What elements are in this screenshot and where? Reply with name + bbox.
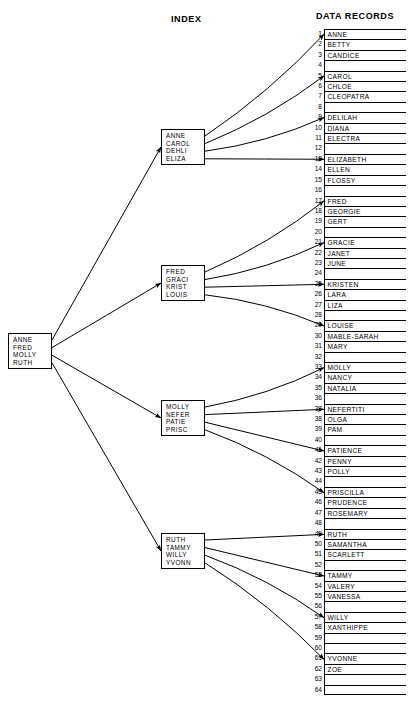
record-name [324,268,406,278]
record-name [324,685,406,695]
record-row[interactable]: 63 [308,674,406,684]
record-row[interactable]: 46PRUDENCE [308,497,406,507]
record-row[interactable]: 20 [308,227,406,237]
record-row[interactable]: 53TAMMY [308,570,406,580]
root-index-node[interactable]: ANNE FRED MOLLY RUTH [8,333,52,369]
record-row[interactable]: 28 [308,310,406,320]
record-row[interactable]: 41PATIENCE [308,445,406,455]
record-row[interactable]: 15FLOSSY [308,175,406,185]
record-name [324,310,406,320]
record-row[interactable]: 1ANNE [308,29,406,39]
record-row[interactable]: 14ELLEN [308,164,406,174]
record-number: 26 [308,289,324,298]
record-row[interactable]: 44 [308,476,406,486]
record-number: 5 [308,71,324,80]
record-row[interactable]: 56 [308,601,406,611]
record-row[interactable]: 52 [308,560,406,570]
record-number: 25 [308,279,324,288]
record-row[interactable]: 25KRISTEN [308,279,406,289]
index-a-key-1: CAROL [166,140,201,148]
index-node-b[interactable]: FRED GRACI KRIST LOUIS [161,265,205,301]
record-name [324,435,406,445]
record-row[interactable]: 29LOUISE [308,320,406,330]
record-row[interactable]: 7CLEOPATRA [308,91,406,101]
record-row[interactable]: 13ELIZABETH [308,154,406,164]
record-name: VANESSA [324,591,406,601]
record-row[interactable]: 3CANDICE [308,50,406,60]
root-key-2: MOLLY [13,351,48,359]
record-row[interactable]: 40 [308,435,406,445]
record-row[interactable]: 27LIZA [308,300,406,310]
record-row[interactable]: 12 [308,143,406,153]
record-row[interactable]: 23JUNE [308,258,406,268]
record-row[interactable]: 47ROSEMARY [308,508,406,518]
record-row[interactable]: 51SCARLETT [308,549,406,559]
record-row[interactable]: 2BETTY [308,39,406,49]
record-name: NEFERTITI [324,404,406,414]
record-name: MOLLY [324,362,406,372]
index-node-c[interactable]: MOLLY NEFER PATIE PRISC [161,400,205,436]
record-row[interactable]: 33MOLLY [308,362,406,372]
record-number: 63 [308,674,324,683]
record-number: 61 [308,653,324,662]
record-pointer-arrow [205,243,324,280]
record-row[interactable]: 30MABLE-SARAH [308,331,406,341]
record-row[interactable]: 62ZOE [308,664,406,674]
record-row[interactable]: 58XANTHIPPE [308,622,406,632]
record-row[interactable]: 61YVONNE [308,653,406,663]
record-row[interactable]: 11ELECTRA [308,133,406,143]
record-row[interactable]: 32 [308,352,406,362]
record-row[interactable]: 45PRISCILLA [308,487,406,497]
record-row[interactable]: 10DIANA [308,123,406,133]
record-pointer-arrow [205,409,324,414]
record-row[interactable]: 38OLGA [308,414,406,424]
record-name [324,601,406,611]
record-row[interactable]: 49RUTH [308,529,406,539]
record-row[interactable]: 34NANCY [308,372,406,382]
record-row[interactable]: 60 [308,643,406,653]
record-row[interactable]: 35NATALIA [308,383,406,393]
record-row[interactable]: 17FRED [308,196,406,206]
record-row[interactable]: 18GEORGIE [308,206,406,216]
record-row[interactable]: 50SAMANTHA [308,539,406,549]
record-row[interactable]: 42PENNY [308,456,406,466]
record-name: VALERY [324,581,406,591]
record-number: 37 [308,404,324,413]
record-row[interactable]: 36 [308,393,406,403]
record-row[interactable]: 54VALERY [308,581,406,591]
record-number: 10 [308,123,324,132]
record-row[interactable]: 22JANET [308,248,406,258]
record-row[interactable]: 4 [308,60,406,70]
record-row[interactable]: 24 [308,268,406,278]
record-pointer-arrow [205,76,324,144]
record-row[interactable]: 16 [308,185,406,195]
record-number: 42 [308,456,324,465]
record-row[interactable]: 37NEFERTITI [308,404,406,414]
record-number: 59 [308,633,324,642]
record-row[interactable]: 9DELILAH [308,112,406,122]
record-row[interactable]: 55VANESSA [308,591,406,601]
record-pointer-arrow [205,563,324,660]
index-node-d[interactable]: RUTH TAMMY WILLY YVONN [161,533,205,569]
record-name [324,476,406,486]
record-row[interactable]: 6CHLOE [308,81,406,91]
index-node-a[interactable]: ANNE CAROL DEHLI ELIZA [161,129,205,165]
record-number: 43 [308,466,324,475]
record-row[interactable]: 43POLLY [308,466,406,476]
record-number: 48 [308,518,324,527]
index-a-key-0: ANNE [166,132,201,140]
record-row[interactable]: 48 [308,518,406,528]
record-row[interactable]: 59 [308,633,406,643]
record-row[interactable]: 19GERT [308,216,406,226]
record-row[interactable]: 39PAM [308,424,406,434]
record-number: 31 [308,341,324,350]
record-row[interactable]: 31MARY [308,341,406,351]
record-number: 45 [308,487,324,496]
record-row[interactable]: 21GRACIE [308,237,406,247]
record-pointer-arrow [205,534,324,540]
record-row[interactable]: 8 [308,102,406,112]
record-row[interactable]: 57WILLY [308,612,406,622]
record-row[interactable]: 64 [308,685,406,695]
record-row[interactable]: 26LARA [308,289,406,299]
record-row[interactable]: 5CAROL [308,71,406,81]
